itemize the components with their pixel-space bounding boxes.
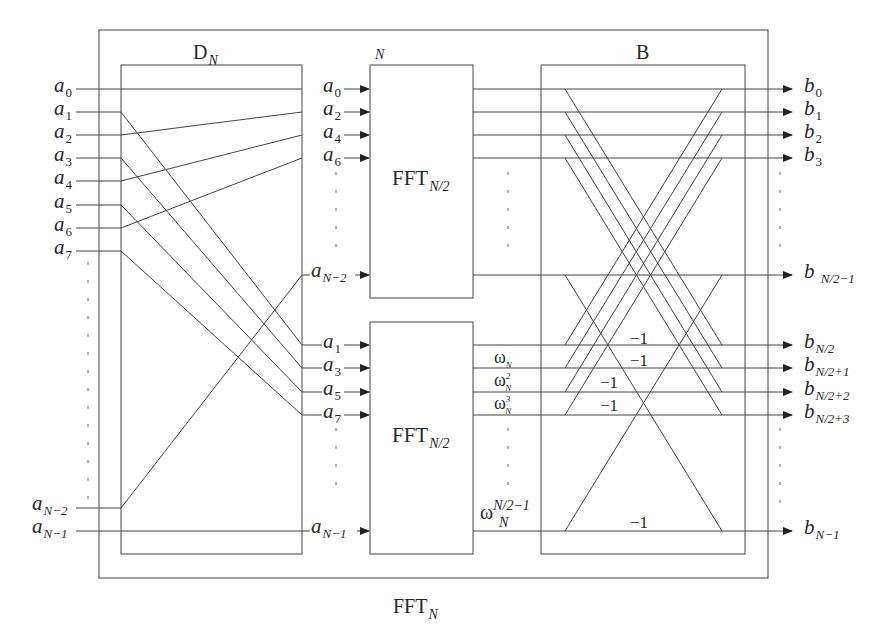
output-label: b N/2−1 [804, 261, 855, 282]
odd-input-label: aN−1 [311, 516, 346, 537]
twiddle-label: ωN/2−1 N [480, 502, 530, 522]
fft-input-arrows [344, 89, 369, 531]
input-label: aN−2 [32, 493, 67, 514]
even-input-label: a6 [323, 144, 341, 165]
input-label: a6 [54, 214, 72, 235]
ellipsis-dots [88, 172, 780, 510]
input-label: a3 [54, 144, 72, 165]
even-input-label: a2 [323, 98, 341, 119]
output-label: b1 [804, 98, 822, 119]
twiddle-label: ω3N [494, 394, 511, 416]
input-label: aN−1 [32, 516, 67, 537]
minus-one-label: −1 [630, 514, 648, 531]
even-input-label: a0 [323, 75, 341, 96]
permutation-wires [121, 89, 302, 531]
input-label: a0 [54, 75, 72, 96]
output-label: b0 [804, 75, 822, 96]
output-label: b3 [804, 144, 822, 165]
butterfly-label: B [636, 42, 649, 62]
odd-input-label: a1 [323, 331, 341, 352]
output-label: bN/2+3 [804, 401, 850, 422]
even-input-label: aN−2 [311, 260, 346, 281]
permutation-label: DN [193, 42, 218, 62]
twiddle-label: ω2N [494, 371, 511, 393]
fft-top-corner-label: N [375, 48, 384, 62]
even-input-label: a4 [323, 121, 341, 142]
input-label: a4 [54, 167, 72, 188]
input-label: a5 [54, 191, 72, 212]
odd-input-label: a3 [323, 354, 341, 375]
minus-one-label: −1 [600, 374, 618, 391]
fft-top-label: FFTN/2 [392, 168, 449, 189]
output-label: bN/2 [804, 331, 834, 352]
minus-one-label: −1 [630, 330, 648, 347]
output-wires [473, 89, 792, 531]
butterfly-wires [565, 89, 722, 531]
output-label: bN/2+2 [804, 378, 850, 399]
butterfly-box [541, 65, 745, 554]
output-label: bN/2+1 [804, 354, 850, 375]
odd-input-label: a5 [323, 378, 341, 399]
input-label: a2 [54, 121, 72, 142]
fft-n-title: FFTN [393, 596, 438, 616]
output-label: bN−1 [804, 517, 839, 538]
input-label: a1 [54, 98, 72, 119]
odd-input-label: a7 [323, 401, 341, 422]
twiddle-label: ωN [494, 348, 512, 370]
minus-one-label: −1 [630, 352, 648, 369]
fft-diagram-canvas [0, 0, 885, 634]
output-label: b2 [804, 121, 822, 142]
fft-input-stubs [302, 275, 322, 531]
input-label: a7 [54, 237, 72, 258]
minus-one-label: −1 [600, 397, 618, 414]
fft-bottom-label: FFTN/2 [392, 425, 449, 446]
